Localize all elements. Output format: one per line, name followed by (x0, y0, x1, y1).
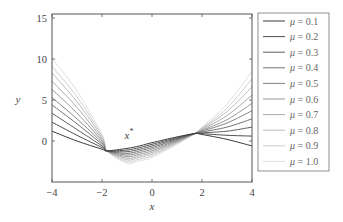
x-axis-ticks: −4−2024 (46, 14, 255, 198)
legend-label: μ = 0.6 (289, 94, 318, 105)
x-tick-label: 4 (249, 187, 255, 198)
legend: μ = 0.1μ = 0.2μ = 0.3μ = 0.4μ = 0.5μ = 0… (258, 13, 329, 171)
series-line (52, 81, 252, 158)
x-axis-label: x (149, 200, 155, 212)
legend-label: μ = 0.4 (289, 62, 318, 73)
x-tick-label: 2 (199, 187, 204, 198)
y-tick-label: 5 (42, 95, 47, 106)
y-tick-label: 0 (42, 136, 47, 147)
legend-label: μ = 0.8 (289, 125, 318, 136)
legend-label: μ = 0.3 (289, 47, 318, 58)
legend-label: μ = 0.1 (289, 16, 318, 27)
series-line (52, 122, 252, 151)
legend-label: μ = 0.2 (289, 31, 318, 42)
legend-label: μ = 1.0 (289, 156, 318, 167)
svg-text:x*: x* (124, 127, 134, 141)
y-tick-label: 10 (37, 54, 48, 65)
x-tick-label: −2 (96, 187, 107, 198)
y-tick-label: 15 (37, 13, 48, 24)
annotation-x-star: x* (124, 127, 134, 141)
plot-curves (52, 58, 252, 163)
x-tick-label: 0 (149, 187, 154, 198)
legend-label: μ = 0.7 (289, 109, 318, 120)
line-chart: −4−2024 051015 x y x* μ = 0.1μ = 0.2μ = … (0, 0, 343, 222)
legend-label: μ = 0.5 (289, 78, 318, 89)
y-axis-label: y (15, 93, 21, 105)
x-tick-label: −4 (46, 187, 58, 198)
legend-label: μ = 0.9 (289, 140, 318, 151)
